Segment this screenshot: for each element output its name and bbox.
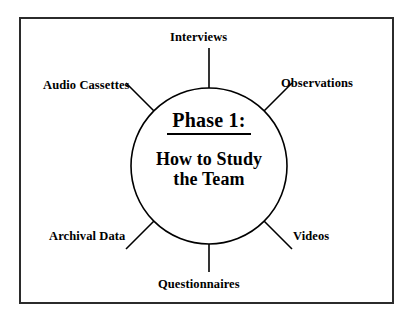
phase-title: Phase 1: — [167, 110, 250, 135]
spoke-label-interviews: Interviews — [170, 30, 227, 45]
spoke-label-observations: Observations — [281, 76, 353, 91]
phase-subtitle-line-2: the Team — [120, 169, 298, 189]
spoke-label-questionnaires: Questionnaires — [158, 277, 240, 292]
diagram-root: Phase 1: How to Study the Team Interview… — [0, 0, 414, 324]
spoke-label-videos: Videos — [293, 229, 329, 244]
center-text-block: Phase 1: How to Study the Team — [120, 110, 298, 189]
spoke-label-audio-cassettes: Audio Cassettes — [43, 78, 130, 93]
spoke-label-archival-data: Archival Data — [49, 229, 125, 244]
phase-subtitle-line-1: How to Study — [120, 149, 298, 169]
